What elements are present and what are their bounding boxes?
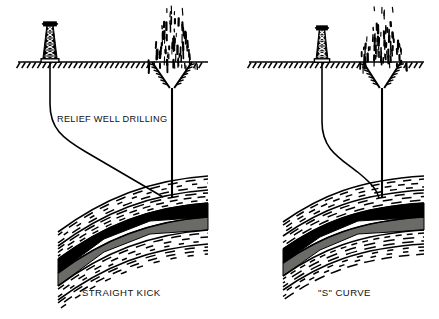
derrick-substructure: [314, 59, 329, 62]
panel-caption-s-curve: "S" CURVE: [318, 287, 371, 298]
derrick-substructure: [41, 59, 59, 62]
plume-droplet: [392, 7, 393, 12]
panel-caption-straight-kick: STRAIGHT KICK: [82, 287, 161, 298]
diagram-canvas: RELIEF WELL DRILLING STRAIGHT KICK "S" C…: [0, 0, 439, 319]
relief-well-drilling-label: RELIEF WELL DRILLING: [57, 114, 167, 124]
relief-well-diagram: RELIEF WELL DRILLING STRAIGHT KICK "S" C…: [0, 0, 439, 319]
